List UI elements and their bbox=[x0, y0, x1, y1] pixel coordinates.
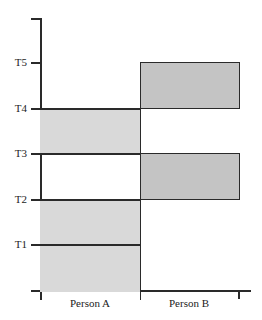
person-a-interval-t0-t2 bbox=[40, 199, 141, 292]
y-tick-t5 bbox=[31, 62, 41, 64]
y-tick-t4 bbox=[31, 108, 141, 110]
x-axis-right-tick bbox=[238, 290, 240, 299]
column-divider bbox=[140, 108, 142, 300]
y-label-t3: T3 bbox=[3, 148, 27, 159]
person-b-interval-t4-t5 bbox=[140, 62, 240, 109]
y-tick-t2 bbox=[31, 199, 141, 201]
y-label-t4: T4 bbox=[3, 103, 27, 114]
y-tick-t3 bbox=[31, 153, 141, 155]
x-label-person-b: Person B bbox=[140, 297, 238, 309]
y-label-t2: T2 bbox=[3, 194, 27, 205]
person-a-t1-divider bbox=[31, 244, 141, 246]
y-axis-top-tick bbox=[31, 18, 41, 20]
person-b-interval-t2-t3 bbox=[140, 153, 240, 200]
x-label-person-a: Person A bbox=[41, 297, 139, 309]
y-label-t1: T1 bbox=[3, 239, 27, 250]
y-label-t5: T5 bbox=[3, 57, 27, 68]
person-a-interval-t3-t4 bbox=[40, 108, 141, 155]
